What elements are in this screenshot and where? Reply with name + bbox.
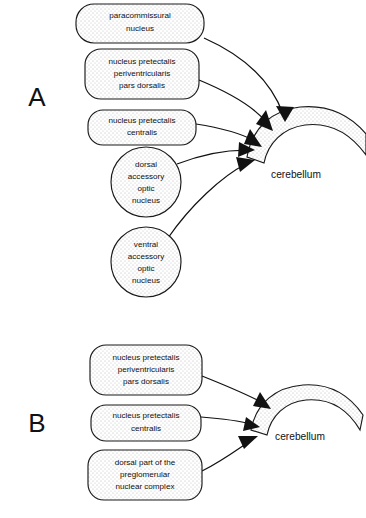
node-ventral-aon-line-1: ventral (134, 240, 158, 249)
node-ventral-accessory-optic-nucleus[interactable]: ventral accessory optic nucleus (111, 227, 181, 297)
cerebellar-afferents-diagram: A cerebellum (0, 0, 366, 518)
node-periventricularis-a-line-3: pars dorsalis (119, 81, 165, 90)
node-nucleus-pretectalis-periventricularis-pars-dorsalis-b[interactable]: nucleus pretectalis periventricularis pa… (90, 345, 202, 395)
cerebellum-label-a: cerebellum (271, 169, 321, 180)
node-paracommissural-nucleus[interactable]: paracommissural nucleus (76, 4, 204, 43)
node-preglomerular-line-2: preglomerular (120, 470, 170, 479)
cerebellum-arc-b (251, 385, 363, 435)
node-dorsal-accessory-optic-nucleus[interactable]: dorsal accessory optic nucleus (111, 147, 181, 217)
node-nucleus-pretectalis-centralis-b[interactable]: nucleus pretectalis centralis (91, 405, 201, 441)
node-dorsal-aon-line-1: dorsal (135, 160, 157, 169)
node-ventral-aon-line-2: accessory (128, 252, 165, 261)
node-ventral-aon-line-3: optic (137, 264, 154, 273)
connector-centralis-to-cerebellum (196, 124, 255, 141)
node-periventricularis-b-line-1: nucleus pretectalis (112, 353, 179, 362)
panel-b: B cerebellum nucleus pretectalis periven… (28, 345, 363, 500)
connector-centralis-to-cerebellum-b (201, 417, 251, 424)
node-ventral-aon-line-4: nucleus (132, 276, 160, 285)
panel-a: A cerebellum (28, 4, 366, 297)
panel-b-label: B (28, 408, 45, 438)
node-ventral-accessory-optic-nucleus-shape[interactable] (111, 227, 181, 297)
node-dorsal-part-of-the-preglomerular-nuclear-complex[interactable]: dorsal part of the preglomerular nuclear… (88, 450, 202, 500)
panel-a-label: A (28, 82, 46, 112)
node-paracommissural-nucleus-line-1: paracommissural (109, 11, 171, 20)
cerebellum-region-b: cerebellum (251, 385, 363, 442)
node-periventricularis-b-line-2: periventricularis (118, 365, 175, 374)
connector-periventricularis-to-cerebellum-b (202, 376, 263, 403)
node-centralis-a-line-1: nucleus pretectalis (108, 116, 175, 125)
figure-root: A cerebellum (0, 0, 366, 518)
node-nucleus-pretectalis-centralis-a[interactable]: nucleus pretectalis centralis (88, 110, 196, 145)
node-dorsal-accessory-optic-nucleus-shape[interactable] (111, 147, 181, 217)
node-preglomerular-line-3: nuclear complex (116, 482, 175, 491)
connector-periventricularis-to-cerebellum (199, 80, 268, 124)
node-preglomerular-line-1: dorsal part of the (115, 458, 176, 467)
node-dorsal-aon-line-4: nucleus (132, 196, 160, 205)
node-periventricularis-b-line-3: pars dorsalis (123, 377, 169, 386)
node-dorsal-aon-line-3: optic (137, 184, 154, 193)
node-periventricularis-a-line-2: periventricularis (114, 69, 171, 78)
node-dorsal-aon-line-2: accessory (128, 172, 165, 181)
cerebellum-label-b: cerebellum (275, 431, 325, 442)
node-periventricularis-a-line-1: nucleus pretectalis (108, 57, 175, 66)
node-centralis-b-line-2: centralis (131, 424, 161, 433)
connector-dorsal-aon-to-cerebellum (177, 150, 246, 164)
node-nucleus-pretectalis-periventricularis-pars-dorsalis-a[interactable]: nucleus pretectalis periventricularis pa… (85, 49, 199, 99)
node-centralis-a-line-2: centralis (127, 128, 157, 137)
node-paracommissural-nucleus-line-2: nucleus (126, 24, 154, 33)
node-centralis-b-line-1: nucleus pretectalis (112, 411, 179, 420)
